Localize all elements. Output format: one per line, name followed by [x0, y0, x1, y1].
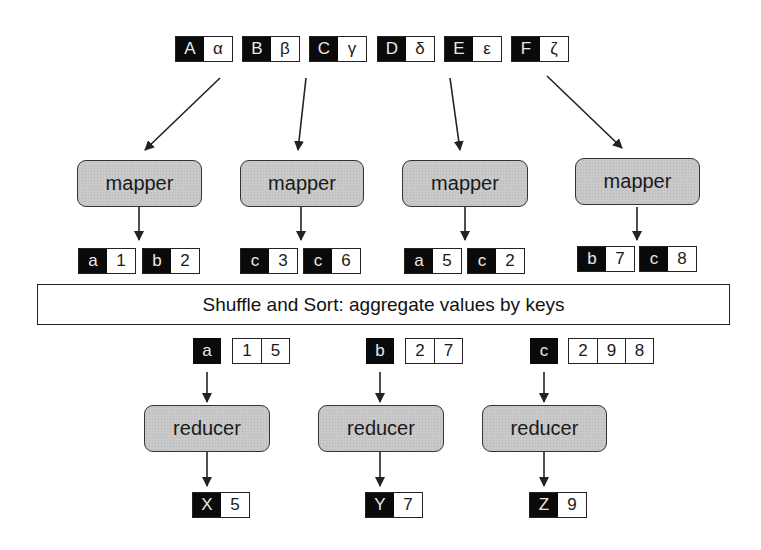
reducer-1-output: X 5	[192, 492, 250, 518]
arrow-input-to-mapper-1	[145, 78, 220, 150]
arrows-layer	[0, 0, 761, 550]
output-key: b	[578, 247, 606, 271]
value: 7	[434, 339, 462, 363]
reducer-label: reducer	[173, 417, 241, 440]
value: 2	[569, 339, 597, 363]
input-key: A	[176, 37, 204, 61]
mapper-4: mapper	[575, 158, 700, 205]
input-key: B	[243, 37, 271, 61]
input-key: D	[378, 37, 406, 61]
input-value: β	[271, 37, 299, 61]
input-key: F	[512, 37, 540, 61]
mapper-3: mapper	[402, 160, 528, 207]
input-key: C	[310, 37, 338, 61]
output-key: a	[405, 249, 433, 273]
output-key: c	[241, 249, 269, 273]
value: 8	[625, 339, 653, 363]
output-value: 8	[668, 247, 696, 271]
output-key: X	[193, 493, 221, 517]
reducer-3-output: Z 9	[529, 492, 587, 518]
mapper-2-output-1: c 3	[240, 248, 298, 274]
output-key: c	[468, 249, 496, 273]
output-key: c	[304, 249, 332, 273]
shuffle-sort-bar: Shuffle and Sort: aggregate values by ke…	[37, 284, 730, 325]
reducer-3-values: 2 9 8	[568, 338, 654, 364]
input-pair-b: B β	[242, 36, 300, 62]
output-value: 7	[394, 493, 422, 517]
input-pair-a: A α	[175, 36, 233, 62]
input-value: ζ	[540, 37, 568, 61]
reducer-2-key: b	[366, 338, 394, 364]
output-value: 2	[496, 249, 524, 273]
reducer-1-key: a	[193, 338, 221, 364]
value: 1	[233, 339, 261, 363]
mapper-3-output-1: a 5	[404, 248, 462, 274]
output-key: c	[640, 247, 668, 271]
mapper-label: mapper	[431, 172, 499, 195]
output-value: 5	[433, 249, 461, 273]
reducer-1-values: 1 5	[232, 338, 290, 364]
value: 2	[406, 339, 434, 363]
value: 9	[597, 339, 625, 363]
mapper-4-output-1: b 7	[577, 246, 635, 272]
input-value: δ	[406, 37, 434, 61]
output-key: a	[79, 249, 107, 273]
input-pair-c: C γ	[309, 36, 367, 62]
mapper-1-output-1: a 1	[78, 248, 136, 274]
input-pair-e: E ε	[444, 36, 502, 62]
output-value: 5	[221, 493, 249, 517]
input-value: γ	[338, 37, 366, 61]
reducer-label: reducer	[511, 417, 579, 440]
output-key: Y	[366, 493, 394, 517]
reducer-1: reducer	[144, 405, 270, 452]
shuffle-sort-label: Shuffle and Sort: aggregate values by ke…	[203, 294, 565, 316]
reducer-3: reducer	[482, 405, 607, 452]
mapper-label: mapper	[604, 170, 672, 193]
arrow-input-to-mapper-4	[547, 76, 622, 148]
reducer-3-key: c	[530, 338, 558, 364]
reducer-label: reducer	[347, 417, 415, 440]
output-value: 3	[269, 249, 297, 273]
mapper-2: mapper	[240, 160, 364, 207]
reducer-2-values: 2 7	[405, 338, 463, 364]
reducer-2-output: Y 7	[365, 492, 423, 518]
mapper-label: mapper	[268, 172, 336, 195]
input-value: α	[204, 37, 232, 61]
output-key: Z	[530, 493, 558, 517]
arrow-input-to-mapper-3	[450, 78, 460, 150]
mapper-3-output-2: c 2	[467, 248, 525, 274]
mapper-label: mapper	[106, 172, 174, 195]
output-value: 6	[332, 249, 360, 273]
input-key: E	[445, 37, 473, 61]
output-value: 7	[606, 247, 634, 271]
input-pair-f: F ζ	[511, 36, 569, 62]
output-key: b	[143, 249, 171, 273]
value: 5	[261, 339, 289, 363]
mapper-1: mapper	[77, 160, 202, 207]
mapper-4-output-2: c 8	[639, 246, 697, 272]
mapper-1-output-2: b 2	[142, 248, 200, 274]
input-pair-d: D δ	[377, 36, 435, 62]
input-value: ε	[473, 37, 501, 61]
arrow-input-to-mapper-2	[298, 78, 306, 150]
output-value: 9	[558, 493, 586, 517]
mapper-2-output-2: c 6	[303, 248, 361, 274]
reducer-2: reducer	[318, 405, 444, 452]
output-value: 2	[171, 249, 199, 273]
output-value: 1	[107, 249, 135, 273]
